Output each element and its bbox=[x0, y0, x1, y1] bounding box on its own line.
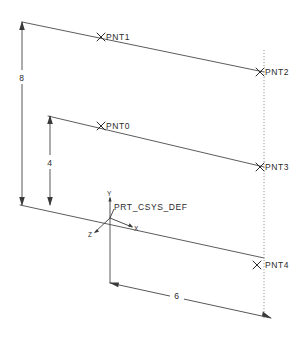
coordinate-system-triad[interactable]: Y X Z PRT_CSYS_DEF bbox=[88, 190, 188, 238]
edge-bottom bbox=[20, 205, 264, 258]
dimension-height-8: 8 bbox=[15, 21, 29, 206]
csys-name-label: PRT_CSYS_DEF bbox=[114, 202, 188, 212]
pnt2-label: PNT2 bbox=[265, 67, 289, 77]
dim-4-arrow-bottom bbox=[47, 197, 53, 206]
dim-4-value: 4 bbox=[47, 158, 52, 168]
point-pnt0[interactable]: PNT0 bbox=[97, 121, 130, 131]
dimension-height-4: 4 bbox=[43, 115, 57, 206]
csys-axis-y-arrow bbox=[108, 197, 111, 202]
pnt1-label: PNT1 bbox=[106, 32, 130, 42]
dimension-width-6: 6 bbox=[109, 283, 272, 319]
edge-top bbox=[22, 22, 264, 72]
csys-axis-x-label: X bbox=[134, 225, 139, 232]
point-pnt4[interactable]: PNT4 bbox=[253, 260, 289, 270]
dim-6-value: 6 bbox=[174, 291, 179, 301]
drawing-canvas: 8 4 6 PNT1 bbox=[0, 0, 302, 340]
point-pnt2[interactable]: PNT2 bbox=[256, 67, 289, 77]
dim-6-line bbox=[110, 283, 271, 318]
pnt3-label: PNT3 bbox=[265, 162, 289, 172]
csys-axis-z-label: Z bbox=[88, 231, 93, 238]
pnt4-label: PNT4 bbox=[265, 260, 289, 270]
csys-axis-z-arrow bbox=[94, 229, 99, 233]
csys-axis-x-arrow bbox=[128, 223, 133, 227]
point-pnt1[interactable]: PNT1 bbox=[97, 32, 130, 42]
dim-8-value: 8 bbox=[19, 73, 24, 83]
cad-sketch-svg: 8 4 6 PNT1 bbox=[0, 0, 302, 340]
edge-middle bbox=[48, 116, 264, 167]
point-pnt3[interactable]: PNT3 bbox=[256, 162, 289, 172]
geometry-lines bbox=[20, 22, 264, 258]
csys-axis-y-label: Y bbox=[107, 190, 112, 197]
pnt4-cross-icon bbox=[253, 261, 261, 269]
pnt0-label: PNT0 bbox=[106, 121, 130, 131]
pnt1-cross-icon bbox=[97, 33, 105, 41]
dim-6-arrow-left bbox=[109, 283, 119, 288]
